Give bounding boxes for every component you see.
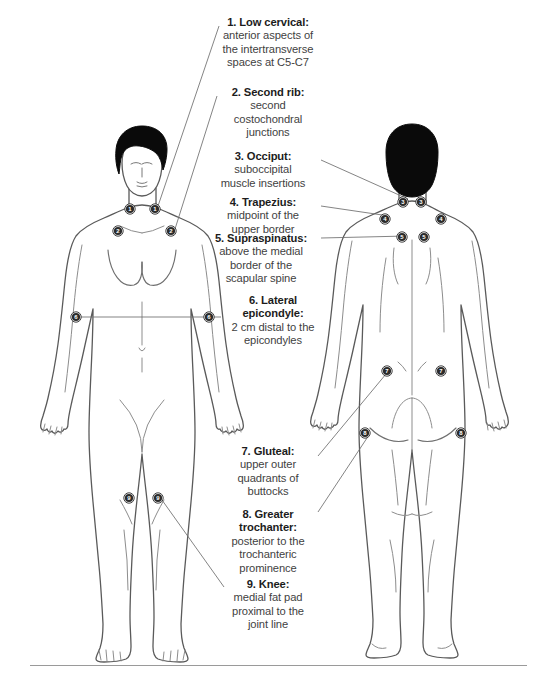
tender-point-marker-6: 6 [71,312,81,322]
label-5-line-1: above the medial [194,245,328,258]
tender-point-marker-4: 4 [436,214,446,224]
label-8-line-1: posterior to the [208,535,328,548]
label-8-greater-trochanter: 8. Greater trochanter: posterior to the … [208,508,328,575]
label-3-line-1: suboccipital [198,163,328,176]
tender-point-diagram: .olf { fill:#ffffff; stroke:#5a5a5a; str… [0,0,557,686]
label-5-supraspinatus: 5. Supraspinatus: above the medial borde… [194,232,328,286]
label-3-title: 3. Occiput: [198,150,328,163]
leader-line-4 [321,206,389,216]
label-5-line-3: scapular spine [194,272,328,285]
label-8-title-line-1: 8. Greater [208,508,328,521]
label-2-title: 2. Second rib: [208,86,328,99]
tender-point-marker-7: 7 [436,366,446,376]
label-4-title: 4. Trapezius: [198,196,328,209]
footer-divider [30,665,527,666]
label-3-occiput: 3. Occiput: suboccipital muscle insertio… [198,150,328,190]
label-3-line-2: muscle insertions [198,177,328,190]
label-6-line-1: 2 cm distal to the [218,321,328,334]
label-1-line-3: spaces at C5-C7 [208,56,328,69]
tender-point-marker-9: 9 [153,493,163,503]
label-9-line-2: proximal to the [208,605,328,618]
label-1-low-cervical: 1. Low cervical: anterior aspects of the… [208,16,328,70]
tender-point-marker-8: 8 [360,428,370,438]
tender-point-marker-3: 3 [416,197,426,207]
label-7-line-3: buttocks [208,485,328,498]
label-5-title: 5. Supraspinatus: [194,232,328,245]
tender-point-marker-2: 2 [113,226,123,236]
label-2-line-3: junctions [208,126,328,139]
tender-point-marker-9: 9 [124,493,134,503]
tender-point-marker-8: 8 [456,428,466,438]
label-7-line-1: upper outer [208,458,328,471]
label-7-gluteal: 7. Gluteal: upper outer quadrants of but… [208,445,328,499]
tender-point-marker-4: 4 [380,214,390,224]
label-9-line-1: medial fat pad [208,591,328,604]
label-8-line-2: trochanteric [208,548,328,561]
label-9-line-3: joint line [208,618,328,631]
tender-point-marker-3: 3 [398,197,408,207]
label-2-line-2: costochondral [208,113,328,126]
label-9-knee: 9. Knee: medial fat pad proximal to the … [208,578,328,632]
label-2-second-rib: 2. Second rib: second costochondral junc… [208,86,328,140]
label-1-line-2: the intertransverse [208,43,328,56]
label-7-line-2: quadrants of [208,472,328,485]
posterior-body-figure [311,124,509,658]
tender-point-marker-5: 5 [419,232,429,242]
label-1-line-1: anterior aspects of [208,29,328,42]
tender-point-marker-1: 1 [125,204,135,214]
label-6-title-line-2: epicondyle: [218,307,328,320]
label-8-title-line-2: trochanter: [208,521,328,534]
tender-point-marker-5: 5 [397,232,407,242]
label-4-line-1: midpoint of the [198,209,328,222]
label-2-line-1: second [208,99,328,112]
label-1-title: 1. Low cervical: [208,16,328,29]
label-9-title: 9. Knee: [208,578,328,591]
label-8-line-3: prominence [208,562,328,575]
label-6-line-2: epicondyles [218,334,328,347]
label-5-line-2: border of the [194,259,328,272]
label-7-title: 7. Gluteal: [208,445,328,458]
label-6-lateral-epicondyle: 6. Lateral epicondyle: 2 cm distal to th… [218,294,328,348]
tender-point-marker-2: 2 [166,226,176,236]
tender-point-marker-7: 7 [382,366,392,376]
label-4-trapezius: 4. Trapezius: midpoint of the upper bord… [198,196,328,236]
label-6-title-line-1: 6. Lateral [218,294,328,307]
tender-point-marker-1: 1 [150,204,160,214]
tender-point-marker-6: 6 [204,312,214,322]
